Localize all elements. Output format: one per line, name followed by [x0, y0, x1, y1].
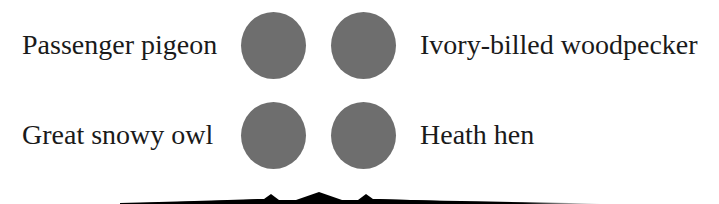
label-great-snowy-owl: Great snowy owl — [22, 121, 213, 149]
label-passenger-pigeon: Passenger pigeon — [22, 31, 217, 59]
dot-passenger-pigeon — [241, 12, 306, 79]
label-ivory-billed-woodpecker: Ivory-billed woodpecker — [420, 31, 698, 59]
brace-connector — [0, 170, 719, 204]
dot-heath-hen — [331, 102, 396, 169]
dot-ivory-billed-woodpecker — [331, 12, 396, 79]
label-heath-hen: Heath hen — [420, 121, 534, 149]
dot-great-snowy-owl — [241, 102, 306, 169]
